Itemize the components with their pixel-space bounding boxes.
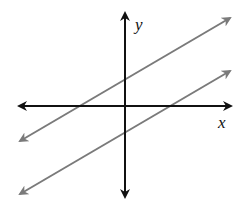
y-axis-label: y: [133, 15, 143, 34]
x-axis-label: x: [217, 113, 226, 132]
coordinate-diagram: y x: [0, 0, 246, 199]
